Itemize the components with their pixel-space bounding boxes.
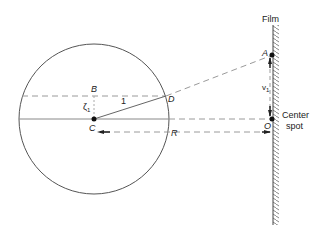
ray-d-to-a-dashed [166,56,270,96]
radius-cd-line [94,96,166,119]
label-a: A [261,48,268,58]
center-spot-label-line1: Center [282,110,309,120]
label-zeta: ζ1 [83,102,91,113]
film-label: Film [262,14,279,24]
label-o: O [264,121,271,131]
center-spot-label-line2: spot [286,121,304,131]
diffraction-geometry-diagram: Film Center spot A B C D O R 1 ζ1 v1 [0,0,329,234]
label-r: R [171,128,178,138]
label-v1: v1 [262,83,270,93]
point-c [92,117,97,122]
point-a [270,53,275,58]
label-b: B [91,84,97,94]
label-radius-one: 1 [121,96,126,106]
label-d: D [168,94,175,104]
label-c: C [89,123,96,133]
